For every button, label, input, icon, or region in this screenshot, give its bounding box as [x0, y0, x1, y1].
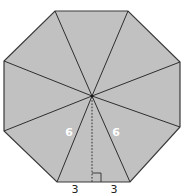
- center-point: [91, 95, 94, 98]
- label-right-slant: 6: [112, 126, 120, 139]
- label-base-right-half: 3: [111, 183, 118, 194]
- label-left-slant: 6: [65, 126, 73, 139]
- label-base-left-half: 3: [72, 183, 79, 194]
- octagon-diagram: 6 6 3 3: [0, 0, 184, 194]
